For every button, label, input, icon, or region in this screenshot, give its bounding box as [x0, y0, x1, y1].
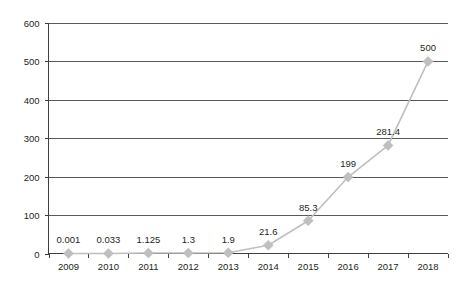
x-axis-category-label: 2010: [98, 261, 119, 272]
data-point-label: 1.3: [182, 234, 195, 245]
data-point-label: 21.6: [259, 226, 278, 237]
data-point-label: 85.3: [299, 202, 318, 213]
y-axis-tick-label: 400: [24, 95, 40, 106]
x-axis-category-label: 2013: [218, 261, 239, 272]
y-axis-tick-label: 200: [24, 172, 40, 183]
data-point-label: 1.125: [136, 234, 160, 245]
x-axis-category-label: 2012: [178, 261, 199, 272]
data-point-label: 1.9: [222, 234, 235, 245]
x-axis-category-label: 2016: [338, 261, 359, 272]
x-axis-category-label: 2009: [58, 261, 79, 272]
x-axis-category-label: 2011: [138, 261, 158, 272]
y-axis-tick-label: 100: [24, 210, 40, 221]
data-point-label: 199: [340, 158, 356, 169]
data-point-label: 500: [420, 42, 436, 53]
y-axis-tick-label: 300: [24, 133, 40, 144]
x-axis-category-label: 2014: [258, 261, 279, 272]
x-axis-category-label: 2018: [417, 261, 438, 272]
data-point-label: 0.001: [57, 234, 81, 245]
y-axis-tick-label: 500: [24, 56, 40, 67]
line-chart: 0100200300400500600 20092010201120122013…: [0, 0, 464, 291]
chart-background: [0, 0, 464, 291]
chart-canvas: 0100200300400500600 20092010201120122013…: [0, 0, 464, 291]
y-axis-tick-label: 0: [34, 249, 39, 260]
y-axis-tick-label: 600: [24, 18, 40, 29]
data-point-label: 281.4: [376, 126, 400, 137]
x-axis-category-label: 2015: [298, 261, 319, 272]
x-axis-category-label: 2017: [378, 261, 399, 272]
data-point-label: 0.033: [97, 234, 121, 245]
